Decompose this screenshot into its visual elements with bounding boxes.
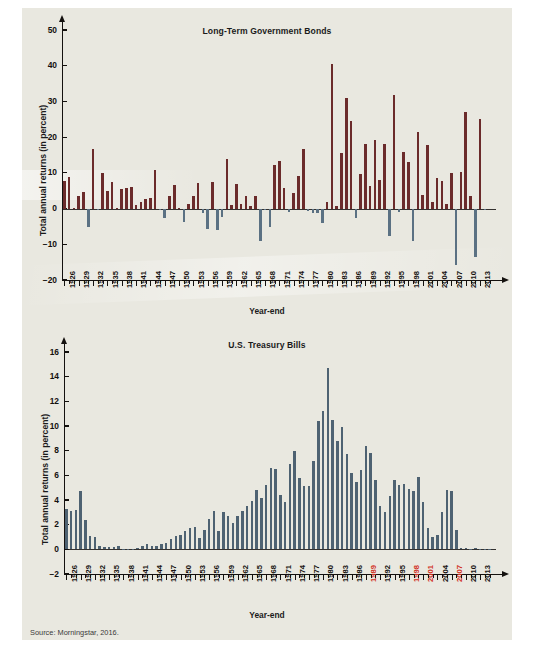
bar	[92, 149, 94, 209]
bar	[232, 523, 234, 549]
x-axis-tick	[342, 281, 343, 284]
bar	[65, 509, 67, 550]
x-axis-tick	[333, 575, 334, 578]
x-axis-tick	[414, 575, 415, 578]
x-axis-tick	[223, 575, 224, 580]
x-axis-tick-label: 1932	[96, 271, 105, 288]
bar	[436, 535, 438, 550]
bar	[378, 180, 380, 209]
x-axis-tick-label: 1944	[155, 565, 164, 582]
x-axis-tick	[399, 281, 400, 284]
x-axis-tick-label: 1959	[225, 271, 234, 288]
x-axis-tick-label: 1968	[269, 565, 278, 582]
bar	[284, 502, 286, 549]
x-axis-tick	[480, 281, 481, 286]
bar	[173, 185, 175, 208]
y-axis-tick	[65, 499, 69, 500]
bar	[350, 473, 352, 549]
x-axis-tick-label: 1929	[84, 565, 93, 582]
x-axis-tick	[289, 281, 290, 284]
bar	[249, 206, 251, 209]
x-axis-tick-label: 2013	[483, 565, 492, 582]
bar	[450, 173, 452, 208]
bar	[484, 549, 486, 550]
x-axis-tick	[323, 575, 324, 580]
bar	[312, 209, 314, 213]
x-axis-tick	[456, 281, 457, 284]
x-axis-tick	[342, 575, 343, 578]
bar	[436, 178, 438, 208]
bar	[484, 209, 486, 210]
bar	[340, 153, 342, 208]
x-axis-tick	[413, 281, 414, 284]
y-axis-tick-label: 14	[31, 371, 59, 381]
x-axis-tick-label: 2010	[469, 565, 478, 582]
bar	[125, 188, 127, 209]
x-axis-tick	[466, 575, 467, 580]
bar	[217, 531, 219, 550]
x-axis-tick	[233, 575, 234, 578]
x-axis-tick	[176, 575, 177, 578]
bar	[269, 209, 271, 227]
source-note: Source: Morningstar, 2016.	[30, 628, 119, 637]
x-axis-tick-label: 1974	[298, 565, 307, 582]
x-axis-tick	[189, 281, 190, 284]
bar	[322, 411, 324, 549]
x-axis-tick	[236, 281, 237, 286]
bar	[288, 209, 290, 213]
bar	[441, 181, 443, 209]
x-axis-tick	[109, 575, 110, 580]
x-axis-tick-label: 1971	[283, 271, 292, 288]
bar	[412, 209, 414, 241]
x-axis-tick	[98, 281, 99, 284]
bar	[446, 490, 448, 549]
bar	[111, 182, 113, 209]
bar	[292, 193, 294, 208]
x-axis-tick	[247, 575, 248, 578]
y-axis-tick-label: 2	[31, 519, 59, 529]
bar	[127, 549, 129, 550]
bar	[116, 208, 118, 209]
bar	[203, 530, 205, 550]
bar	[236, 516, 238, 549]
x-axis-tick	[179, 281, 180, 286]
bar	[251, 501, 253, 549]
x-axis-tick	[251, 281, 252, 286]
bar	[393, 480, 395, 549]
x-axis-tick-label: 1995	[398, 565, 407, 582]
x-axis-tick	[138, 575, 139, 580]
x-axis-tick	[128, 575, 129, 578]
x-axis-tick	[204, 575, 205, 578]
bar	[192, 196, 194, 209]
x-axis-tick	[265, 281, 266, 286]
bar	[264, 209, 266, 210]
x-axis-tick	[193, 281, 194, 286]
x-axis-tick-label: 1977	[312, 565, 321, 582]
bar	[403, 484, 405, 549]
x-axis-tick-label: 1980	[326, 565, 335, 582]
x-axis-tick	[385, 281, 386, 284]
x-axis-tick	[157, 575, 158, 578]
x-axis-tick	[442, 575, 443, 578]
x-axis-tick	[352, 575, 353, 580]
x-axis-tick	[64, 281, 65, 286]
x-axis-tick	[185, 575, 186, 578]
x-axis-tick	[337, 575, 338, 580]
x-axis-tick	[171, 575, 172, 578]
y-axis-tick-label: 20	[29, 132, 57, 142]
bar	[460, 172, 462, 208]
x-axis-tick	[380, 281, 381, 286]
bar	[216, 209, 218, 231]
x-axis-tick	[142, 575, 143, 578]
bar	[170, 539, 172, 549]
bar	[398, 209, 400, 212]
x-axis-tick	[117, 281, 118, 284]
bar	[154, 170, 156, 208]
bar	[407, 162, 409, 209]
x-axis-tick	[219, 575, 220, 578]
x-axis-tick	[280, 575, 281, 580]
bar	[227, 516, 229, 549]
x-axis-tick	[432, 281, 433, 284]
chart-long-term-government-bonds: Long-Term Government Bonds Total annual …	[22, 8, 512, 328]
x-axis-tick	[328, 575, 329, 578]
